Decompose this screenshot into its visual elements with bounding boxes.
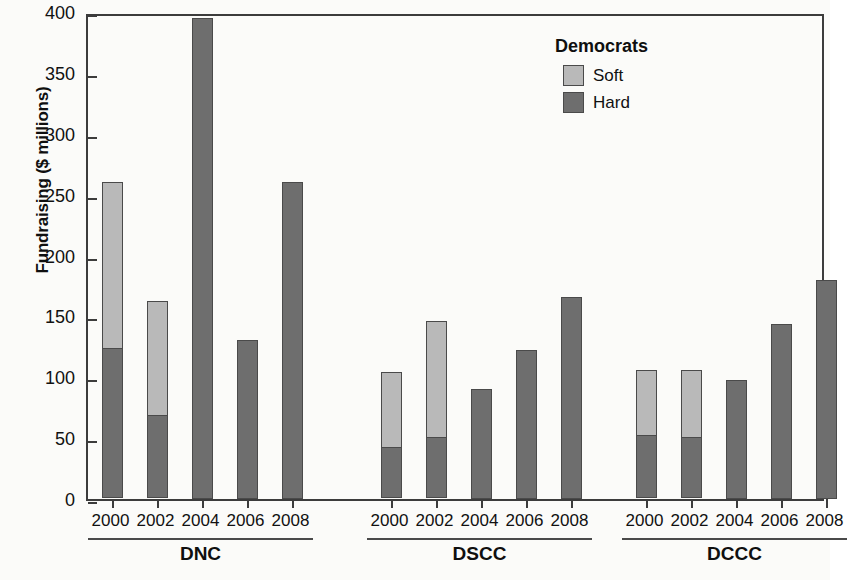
bar-segment-soft (636, 370, 657, 436)
bar-dccc-2000 (636, 370, 657, 499)
bar-segment-hard (816, 280, 837, 499)
bar-dnc-2008 (282, 182, 303, 499)
x-axis-tick-mark (202, 499, 204, 508)
bar-segment-hard (726, 380, 747, 499)
bar-segment-hard (771, 324, 792, 499)
bar-segment-hard (381, 447, 402, 498)
x-axis-tick-mark (292, 499, 294, 508)
bar-dscc-2002 (426, 321, 447, 499)
x-axis-label-dnc-2004: 2004 (182, 511, 220, 531)
y-axis-tick-label: 0 (65, 490, 75, 511)
y-axis-tick-mark (88, 76, 97, 78)
bar-segment-hard (282, 182, 303, 499)
bar-dccc-2008 (816, 280, 837, 499)
x-axis-tick-labels: 2000200220042006200820002002200420062008… (86, 511, 824, 535)
bar-segment-soft (426, 321, 447, 438)
y-axis-tick-label: 400 (45, 3, 75, 24)
bar-segment-hard (147, 415, 168, 498)
x-axis-tick-mark (736, 499, 738, 508)
y-axis-tick-mark (88, 380, 97, 382)
bar-dccc-2002 (681, 370, 702, 499)
bar-dnc-2004 (192, 18, 213, 499)
group-underline-dscc (367, 538, 592, 540)
x-axis-tick-mark (691, 499, 693, 508)
x-axis-label-dnc-2002: 2002 (137, 511, 175, 531)
x-axis-tick-mark (781, 499, 783, 508)
bar-segment-soft (681, 370, 702, 438)
x-axis-label-dccc-2000: 2000 (626, 511, 664, 531)
x-axis-tick-mark (391, 499, 393, 508)
y-axis-tick-mark (88, 137, 97, 139)
x-axis-tick-mark (826, 499, 828, 508)
bar-dscc-2006 (516, 350, 537, 499)
bar-segment-hard (102, 348, 123, 498)
bar-segment-soft (381, 372, 402, 447)
y-axis-tick-mark (88, 319, 97, 321)
group-label-dccc: DCCC (707, 543, 762, 565)
legend-item-soft: Soft (563, 65, 755, 86)
x-axis-label-dnc-2006: 2006 (227, 511, 265, 531)
bar-dnc-2000 (102, 182, 123, 499)
x-axis-tick-mark (436, 499, 438, 508)
legend-label-hard: Hard (593, 93, 630, 113)
legend-item-hard: Hard (563, 92, 755, 113)
legend-title: Democrats (555, 36, 755, 57)
bar-segment-soft (147, 301, 168, 417)
x-axis-label-dccc-2004: 2004 (716, 511, 754, 531)
x-axis-tick-mark (112, 499, 114, 508)
bar-dccc-2006 (771, 324, 792, 499)
y-axis-tick-label: 250 (45, 186, 75, 207)
y-axis-tick-mark (88, 502, 97, 504)
bar-dscc-2000 (381, 372, 402, 499)
x-axis-tick-mark (247, 499, 249, 508)
x-axis-label-dccc-2006: 2006 (761, 511, 799, 531)
y-axis-tick-mark (88, 259, 97, 261)
x-axis-label-dscc-2000: 2000 (371, 511, 409, 531)
y-axis-tick-label: 150 (45, 307, 75, 328)
legend: Democrats Soft Hard (555, 36, 755, 119)
x-axis-label-dscc-2008: 2008 (551, 511, 589, 531)
x-axis-tick-mark (526, 499, 528, 508)
x-axis-tick-mark (481, 499, 483, 508)
y-axis-tick-mark (88, 198, 97, 200)
bar-dccc-2004 (726, 380, 747, 499)
y-axis-tick-mark (88, 15, 97, 17)
y-axis-tick-label: 200 (45, 247, 75, 268)
bar-dscc-2004 (471, 389, 492, 499)
group-label-dscc: DSCC (453, 543, 507, 565)
bar-segment-hard (471, 389, 492, 499)
x-axis-label-dccc-2002: 2002 (671, 511, 709, 531)
bar-segment-hard (561, 297, 582, 499)
x-axis-tick-mark (157, 499, 159, 508)
bar-segment-hard (681, 437, 702, 498)
x-axis-label-dnc-2008: 2008 (272, 511, 310, 531)
x-axis-label-dscc-2002: 2002 (416, 511, 454, 531)
y-axis-tick-label: 50 (55, 429, 75, 450)
bar-segment-hard (237, 340, 258, 499)
x-axis-tick-mark (646, 499, 648, 508)
x-axis-label-dnc-2000: 2000 (92, 511, 130, 531)
bar-dnc-2006 (237, 340, 258, 499)
group-label-dnc: DNC (180, 543, 221, 565)
group-underline-dnc (88, 538, 313, 540)
bar-segment-hard (426, 437, 447, 498)
bar-segment-hard (636, 435, 657, 498)
x-axis-tick-mark (571, 499, 573, 508)
bar-segment-soft (102, 182, 123, 349)
legend-swatch-soft-icon (563, 65, 584, 86)
legend-swatch-hard-icon (563, 92, 584, 113)
x-axis-label-dccc-2008: 2008 (806, 511, 844, 531)
y-axis-tick-label: 350 (45, 64, 75, 85)
bar-dscc-2008 (561, 297, 582, 499)
bar-segment-hard (516, 350, 537, 499)
y-axis-tick-label: 100 (45, 368, 75, 389)
bar-dnc-2002 (147, 301, 168, 499)
y-axis-tick-label: 300 (45, 125, 75, 146)
y-axis-tick-mark (88, 441, 97, 443)
x-axis-label-dscc-2006: 2006 (506, 511, 544, 531)
group-underline-dccc (622, 538, 847, 540)
bar-segment-hard (192, 18, 213, 499)
legend-label-soft: Soft (593, 66, 623, 86)
x-axis-label-dscc-2004: 2004 (461, 511, 499, 531)
